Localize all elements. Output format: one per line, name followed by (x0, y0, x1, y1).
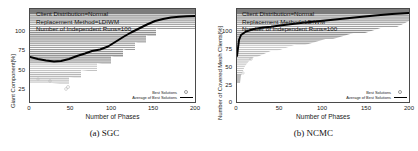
y-tick-label: 100 (11, 28, 25, 34)
scatter-marker-icon (393, 90, 407, 95)
annotation-line: Replacement Method=LDIWM (242, 18, 337, 26)
annotation-line: Client Distribution=Normal (242, 10, 337, 18)
y-tick-label: 100 (218, 28, 232, 34)
x-tick-label: 50 (63, 105, 77, 111)
y-axis-label: Number of Covered Mesh Clients[%] (217, 26, 223, 120)
annotation-block-sgc: Client Distribution=Normal Replacement M… (36, 10, 131, 33)
x-tick-label: 0 (229, 105, 243, 111)
legend-sgc: Best Solutions Average of Best Solutions (132, 90, 193, 100)
scatter-marker-icon (179, 90, 193, 95)
legend-label: Average of Best Solutions (132, 95, 177, 100)
annotation-block-ncmc: Client Distribution=Normal Replacement M… (242, 10, 337, 33)
y-tick-label: 75 (218, 46, 232, 52)
panel-ncmc: Number of Covered Mesh Clients[%] 100 75… (209, 0, 418, 151)
panel-caption-ncmc: (b) NCMC (209, 128, 418, 138)
x-axis-label: Number of Phases (29, 113, 196, 120)
annotation-line: Number of Independent Runs=100 (36, 25, 131, 33)
x-axis-label: Number of Phases (236, 113, 410, 120)
annotation-line: Replacement Method=LDIWM (36, 18, 131, 26)
legend-item-average: Average of Best Solutions (346, 95, 407, 100)
y-tick-label: 25 (218, 82, 232, 88)
legend-ncmc: Best Solutions Average of Best Solutions (346, 90, 407, 100)
figure-two-panel-plots: Giant Component[%] 100 75 50 25 (0, 0, 418, 151)
x-tick-label: 200 (188, 105, 202, 111)
annotation-line: Client Distribution=Normal (36, 10, 131, 18)
line-swatch-icon (393, 97, 407, 98)
x-tick-label: 200 (402, 105, 416, 111)
line-swatch-icon (179, 97, 193, 98)
x-tick-label: 50 (272, 105, 286, 111)
x-tick-label: 0 (22, 105, 36, 111)
y-tick-label: 75 (11, 47, 25, 53)
annotation-line: Number of Independent Runs=100 (242, 25, 337, 33)
panel-sgc: Giant Component[%] 100 75 50 25 (0, 0, 209, 151)
x-tick-label: 100 (315, 105, 329, 111)
x-tick-label: 150 (146, 105, 160, 111)
panel-caption-sgc: (a) SGC (0, 128, 209, 138)
y-tick-label: 50 (11, 67, 25, 73)
x-tick-label: 100 (104, 105, 118, 111)
x-tick-label: 150 (359, 105, 373, 111)
y-tick-label: 25 (11, 86, 25, 92)
y-axis-label: Giant Component[%] (10, 54, 16, 108)
y-tick-label: 50 (218, 64, 232, 70)
legend-item-average: Average of Best Solutions (132, 95, 193, 100)
legend-label: Average of Best Solutions (346, 95, 391, 100)
